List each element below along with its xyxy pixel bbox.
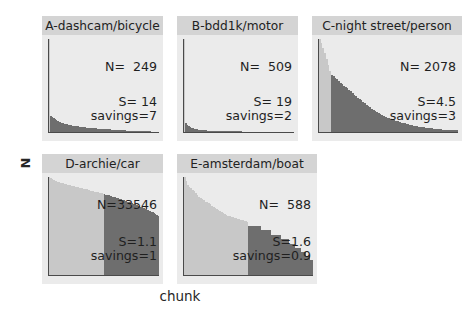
panel-d: D-archie/car N=33546 S=1.1savings=1 xyxy=(42,154,163,284)
panel-a: A-dashcam/bicycle N= 249 S= 14savings=7 xyxy=(42,16,163,141)
panel-d-savings-label: savings=1 xyxy=(91,249,157,263)
figure-canvas: N chunk A-dashcam/bicycle N= 249 S= 14sa… xyxy=(0,0,475,316)
panel-e-s-label: S=1.6 xyxy=(272,234,311,249)
panel-a-axes: N= 249 S= 14savings=7 xyxy=(42,35,163,141)
panel-c-bottom-spine xyxy=(319,132,458,133)
bar xyxy=(293,39,294,132)
panel-e-n-label: N= 588 xyxy=(259,197,311,212)
panel-b-axes: N= 509 S= 19savings=2 xyxy=(177,35,298,141)
panel-c-savings-label: savings=3 xyxy=(390,109,456,123)
panel-c-title: C-night street/person xyxy=(312,16,462,35)
panel-a-left-spine xyxy=(48,39,49,133)
panel-c-left-spine xyxy=(318,39,319,133)
panel-d-axes: N=33546 S=1.1savings=1 xyxy=(42,173,163,284)
panel-a-stats-label: S= 14savings=7 xyxy=(91,95,157,124)
panel-d-s-label: S=1.1 xyxy=(118,234,157,249)
panel-c-n-label: N= 2078 xyxy=(400,59,456,74)
panel-a-n-label: N= 249 xyxy=(105,59,157,74)
panel-c-s-label: S=4.5 xyxy=(417,94,456,109)
panel-e-title: E-amsterdam/boat xyxy=(177,154,317,173)
panel-e-stats-label: S=1.6savings=0.9 xyxy=(233,235,311,264)
panel-d-n-label: N=33546 xyxy=(97,197,157,212)
panel-e-axes: N= 588 S=1.6savings=0.9 xyxy=(177,173,317,284)
panel-e-savings-label: savings=0.9 xyxy=(233,249,311,263)
panel-d-bottom-spine xyxy=(49,275,159,276)
panel-c-axes: N= 2078 S=4.5savings=3 xyxy=(312,35,462,141)
panel-b-s-label: S= 19 xyxy=(253,94,292,109)
bar xyxy=(311,177,313,275)
panel-c-stats-label: S=4.5savings=3 xyxy=(390,95,456,124)
bar xyxy=(158,39,159,132)
panel-d-stats-label: S=1.1savings=1 xyxy=(91,235,157,264)
panel-b-title: B-bdd1k/motor xyxy=(177,16,298,35)
panel-a-s-label: S= 14 xyxy=(118,94,157,109)
panel-e-left-spine xyxy=(183,177,184,276)
panel-e: E-amsterdam/boat N= 588 S=1.6savings=0.9 xyxy=(177,154,317,284)
panel-b-bottom-spine xyxy=(184,132,294,133)
panel-a-savings-label: savings=7 xyxy=(91,109,157,123)
panel-b-n-label: N= 509 xyxy=(240,59,292,74)
y-axis-label: N xyxy=(12,150,38,176)
panel-b-stats-label: S= 19savings=2 xyxy=(226,95,292,124)
panel-d-title: D-archie/car xyxy=(42,154,163,173)
panel-a-title: A-dashcam/bicycle xyxy=(42,16,163,35)
panel-d-left-spine xyxy=(48,177,49,276)
bar xyxy=(158,177,159,275)
panel-a-bottom-spine xyxy=(49,132,159,133)
panel-c: C-night street/person N= 2078 S=4.5savin… xyxy=(312,16,462,141)
panel-e-bottom-spine xyxy=(184,275,313,276)
panel-b-left-spine xyxy=(183,39,184,133)
panel-b-savings-label: savings=2 xyxy=(226,109,292,123)
bar xyxy=(456,39,458,132)
x-axis-label: chunk xyxy=(0,288,360,304)
panel-b: B-bdd1k/motor N= 509 S= 19savings=2 xyxy=(177,16,298,141)
